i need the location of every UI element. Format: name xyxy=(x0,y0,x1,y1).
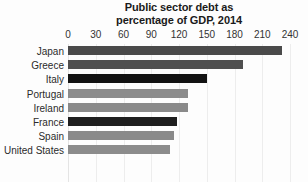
category-label: United States xyxy=(0,146,64,156)
bar xyxy=(68,131,174,140)
chart-title-line-1: Public sector debt as xyxy=(68,1,290,14)
x-tick-label-150: 150 xyxy=(198,29,215,41)
bar-chart: Public sector debt as percentage of GDP,… xyxy=(0,0,308,182)
x-tick-label-120: 120 xyxy=(171,29,188,41)
bar xyxy=(68,117,177,126)
category-label: Italy xyxy=(0,75,64,85)
x-tick-label-180: 180 xyxy=(226,29,243,41)
bar xyxy=(68,74,207,83)
gridline-210 xyxy=(262,44,263,182)
x-axis-tick-labels: 0306090120150180210240 xyxy=(68,29,290,43)
category-label: Ireland xyxy=(0,104,64,114)
category-label: France xyxy=(0,118,64,128)
chart-title-line-2: percentage of GDP, 2014 xyxy=(68,14,290,27)
bar xyxy=(68,89,188,98)
bar xyxy=(68,60,243,69)
chart-title: Public sector debt as percentage of GDP,… xyxy=(68,1,290,27)
category-labels: JapanGreeceItalyPortugalIrelandFranceSpa… xyxy=(0,44,64,182)
x-tick-label-30: 30 xyxy=(90,29,101,41)
bar xyxy=(68,46,282,55)
x-tick-label-0: 0 xyxy=(65,29,71,41)
x-tick-label-240: 240 xyxy=(282,29,299,41)
category-label: Greece xyxy=(0,61,64,71)
gridline-240 xyxy=(290,44,291,182)
category-label: Japan xyxy=(0,47,64,57)
x-tick-label-210: 210 xyxy=(254,29,271,41)
x-tick-label-90: 90 xyxy=(146,29,157,41)
bar xyxy=(68,103,188,112)
plot-area xyxy=(68,44,290,182)
category-label: Spain xyxy=(0,132,64,142)
category-label: Portugal xyxy=(0,90,64,100)
x-tick-label-60: 60 xyxy=(118,29,129,41)
bar xyxy=(68,145,170,154)
